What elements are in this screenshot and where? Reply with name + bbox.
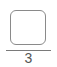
denominator: 3 xyxy=(0,51,57,65)
numerator-input[interactable] xyxy=(10,10,46,45)
